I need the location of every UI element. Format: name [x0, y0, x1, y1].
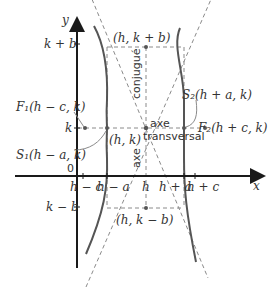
- label-vertex2: S₂(h + a, k): [182, 88, 252, 102]
- label-focus1: F₁(h − c, k): [15, 100, 86, 114]
- x-tick-h-plus-c: h + c: [187, 180, 219, 194]
- label-vertex1: S₁(h − a, k): [16, 148, 86, 162]
- y-tick-k: k: [65, 121, 72, 135]
- origin-label: 0: [67, 162, 74, 175]
- y-axis-label: y: [61, 13, 69, 27]
- hyperbola-left-branch: [86, 26, 107, 254]
- label-focus2: F₂(h + c, k): [197, 121, 268, 135]
- focus1-leader: [74, 112, 84, 127]
- label-bottom-conjugate: (h, k − b): [116, 213, 174, 227]
- transverse-axis-word2: transversal: [143, 130, 205, 143]
- bottom-conjugate-point: [144, 206, 148, 210]
- x-tick-h: h: [142, 180, 150, 194]
- x-tick-h-minus-a: h − a: [97, 180, 130, 194]
- hyperbola-diagram: y x 0 k + b k k − b h − c h − a h h + a …: [0, 0, 274, 287]
- conjugate-axis-word1: conjugué: [130, 48, 143, 99]
- top-conjugate-point: [144, 45, 148, 49]
- x-axis-label: x: [253, 179, 260, 193]
- y-tick-k-minus-b: k − b: [46, 200, 79, 214]
- vertex2-leader: [186, 100, 197, 127]
- label-top-conjugate: (h, k + b): [113, 31, 171, 45]
- conjugate-axis-word2: axe: [130, 148, 143, 168]
- transverse-axis-word1: axe: [150, 117, 170, 130]
- y-tick-k-plus-b: k + b: [44, 37, 77, 51]
- label-center: (h, k): [109, 133, 141, 147]
- vertex1-point: [105, 126, 109, 130]
